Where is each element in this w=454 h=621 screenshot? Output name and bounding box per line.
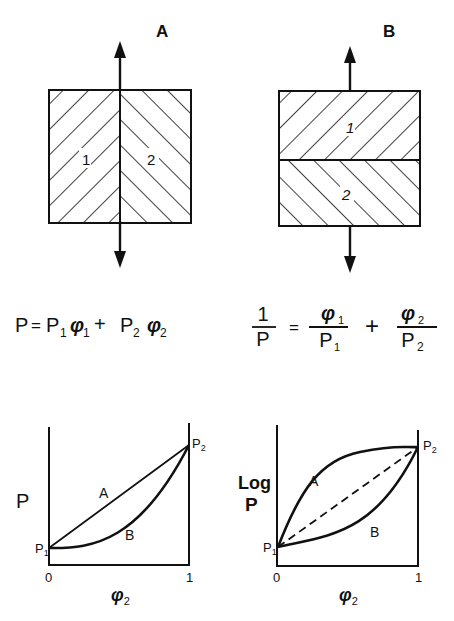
panel-a-region-1-label: 1	[82, 151, 90, 168]
equation-b-f1-num: φ	[321, 302, 335, 324]
panel-b-region-2-label: 2	[341, 186, 351, 203]
panel-a-arrow-up-icon	[114, 41, 126, 90]
graph-linear-x-label: φ2	[111, 585, 130, 607]
graph-linear-p1-label: P1	[35, 541, 49, 558]
panel-a: A 1 2	[49, 22, 191, 268]
panel-a-label: A	[156, 22, 168, 41]
graph-linear-p2-label: P2	[192, 436, 206, 453]
graph-log-label-b: B	[370, 524, 379, 540]
equation-b-lhs-den: P	[256, 328, 269, 350]
equation-a-p1-sub: 1	[60, 326, 67, 340]
equation-b-plus: +	[365, 312, 379, 339]
graph-log-y-label-log: Log	[238, 473, 271, 493]
equation-a-phi2: φ	[147, 314, 161, 336]
graph-linear-label-b: B	[125, 527, 134, 543]
graph-log-curve-linear	[278, 447, 418, 547]
panel-a-arrow-down-icon	[114, 223, 126, 268]
equation-a-lhs: P	[15, 314, 28, 336]
equation-b-lhs-num: 1	[257, 303, 268, 325]
graph-log-label-a: A	[309, 473, 319, 489]
equation-a-phi1-sub: 1	[83, 326, 90, 340]
panel-a-region-2-label: 2	[147, 151, 155, 168]
equation-a-phi1: φ	[70, 314, 84, 336]
equation-a-p1: P	[46, 314, 59, 336]
graph-log: Log P A B P1 P2 0 1 φ2	[238, 425, 437, 607]
equation-a-p2-sub: 2	[133, 326, 140, 340]
equation-b-f2-den-sub: 2	[417, 340, 424, 354]
graph-linear-xtick-0: 0	[45, 570, 52, 585]
equation-a-plus: +	[94, 313, 106, 335]
graph-linear-xtick-1: 1	[186, 570, 193, 585]
graph-linear: P A B P1 P2 0 1 φ2	[16, 423, 206, 607]
graph-log-x-label: φ2	[339, 585, 358, 607]
equation-b-f2-num: φ	[401, 302, 415, 324]
equation-b-f1-den: P	[319, 329, 332, 351]
equation-a: P = P 1 φ 1 + P 2 φ 2	[15, 313, 167, 340]
panel-b-region-1-label: 1	[346, 119, 354, 136]
equation-b-equals: =	[289, 318, 299, 337]
equation-b-f2-num-sub: 2	[418, 314, 424, 326]
graph-log-xtick-0: 0	[273, 570, 280, 585]
panel-b-arrow-down-icon	[344, 226, 356, 273]
panel-b-label: B	[383, 22, 395, 41]
graph-log-p1-label: P1	[263, 540, 277, 557]
equation-a-equals: =	[31, 316, 41, 335]
equation-a-phi2-sub: 2	[160, 326, 167, 340]
panel-b: B 1 2	[279, 22, 420, 273]
graph-linear-y-label: P	[16, 490, 29, 512]
equation-b-f2-den: P	[401, 329, 414, 351]
equation-b-f1-den-sub: 1	[334, 341, 340, 353]
equation-b: 1 P = φ 1 P 1 + φ 2 P 2	[252, 302, 437, 354]
equation-b-f1-num-sub: 1	[338, 314, 344, 326]
graph-linear-label-a: A	[99, 485, 109, 501]
panel-b-arrow-up-icon	[344, 46, 356, 91]
equation-a-p2: P	[120, 314, 133, 336]
graph-log-y-label-p: P	[245, 494, 258, 515]
graph-log-xtick-1: 1	[415, 570, 422, 585]
figure-canvas: A 1 2 B 1 2	[0, 0, 454, 621]
graph-log-p2-label: P2	[423, 438, 437, 455]
